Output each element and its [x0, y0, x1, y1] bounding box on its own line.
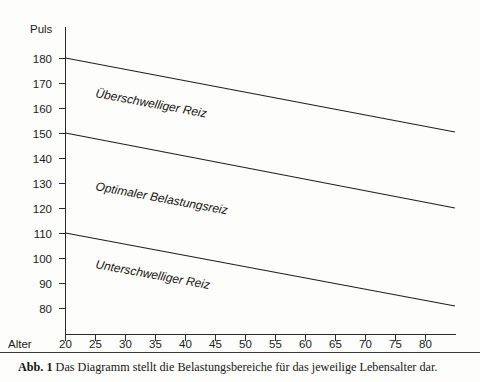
x-axis-title: Alter: [8, 338, 32, 350]
zone-annotations: Überschwelliger Reiz Optimaler Belastung…: [94, 86, 228, 292]
y-tick-label: 80: [39, 303, 52, 315]
zone-label-unterschwellig: Unterschwelliger Reiz: [94, 257, 211, 292]
figure-caption-number: Abb. 1: [18, 360, 53, 374]
x-tick-label: 25: [89, 338, 102, 350]
y-tick-label: 90: [39, 278, 52, 290]
figure-caption-text: Das Diagramm stellt die Belastungsbereic…: [56, 360, 438, 374]
x-tick-label: 30: [119, 338, 132, 350]
y-tick-label: 110: [34, 228, 52, 240]
y-tick-label: 180: [33, 53, 52, 65]
chart-plot-area: Puls 180 170 160: [0, 0, 480, 352]
y-axis-ticks: [59, 59, 65, 309]
y-tick-label: 120: [33, 203, 52, 215]
caption-divider: [0, 352, 480, 353]
y-tick-label: 170: [33, 78, 52, 90]
y-tick-label: 130: [33, 178, 52, 190]
y-axis-tick-labels: 180 170 160 150 140 130 120 110 100 90 8…: [33, 53, 52, 315]
y-tick-label: 160: [33, 103, 52, 115]
zone-label-optimal: Optimaler Belastungsreiz: [94, 179, 228, 217]
x-tick-label: 50: [239, 338, 252, 350]
zone-label-ueberschwellig: Überschwelliger Reiz: [94, 86, 207, 120]
x-tick-label: 75: [389, 338, 402, 350]
x-tick-label: 55: [269, 338, 282, 350]
x-tick-label: 35: [149, 338, 162, 350]
x-axis-tick-labels: 20 25 30 35 40 45 50 55 60 65 70 75 80: [59, 338, 432, 350]
x-tick-label: 45: [209, 338, 222, 350]
pulse-zones-chart: Puls 180 170 160: [0, 0, 480, 352]
x-tick-label: 65: [329, 338, 342, 350]
y-tick-label: 140: [33, 153, 52, 165]
x-tick-label: 40: [179, 338, 192, 350]
x-tick-label: 20: [59, 338, 72, 350]
x-tick-label: 70: [359, 338, 372, 350]
y-tick-label: 150: [33, 128, 52, 140]
figure-caption: Abb. 1 Das Diagramm stellt die Belastung…: [0, 356, 480, 375]
y-tick-label: 100: [33, 253, 52, 265]
figure-container: Puls 180 170 160: [0, 0, 480, 382]
y-axis-title: Puls: [30, 23, 53, 35]
x-tick-label: 60: [299, 338, 312, 350]
x-tick-label: 80: [419, 338, 432, 350]
